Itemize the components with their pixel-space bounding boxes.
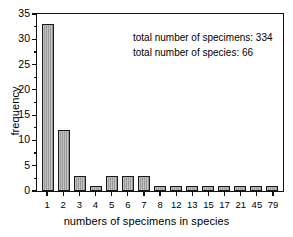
x-tick-label: 1	[39, 198, 55, 212]
annotation-species: total number of species: 66	[133, 46, 273, 61]
y-tick-label: 0	[24, 184, 30, 197]
x-axis-title: numbers of specimens in species	[0, 215, 293, 227]
x-tick-label: 79	[265, 198, 281, 212]
bar	[122, 176, 134, 191]
x-axis-tick-labels: 1234567812131517214579	[36, 198, 284, 212]
x-tick-label: 3	[71, 198, 87, 212]
x-tick-label: 4	[87, 198, 103, 212]
y-tick-label: 20	[18, 83, 30, 96]
bar-slot	[56, 14, 72, 191]
bar-slot	[40, 14, 56, 191]
bar	[106, 176, 118, 191]
bar	[250, 186, 262, 191]
bar-slot	[88, 14, 104, 191]
bar-slot	[104, 14, 120, 191]
x-tick-label: 13	[184, 198, 200, 212]
plot-area: 05101520253035 total number of specimens…	[36, 13, 284, 192]
x-tick-label: 12	[168, 198, 184, 212]
y-tick-label: 35	[18, 7, 30, 20]
bar	[170, 186, 182, 191]
x-tick-label: 17	[217, 198, 233, 212]
bar	[202, 186, 214, 191]
x-tick-label: 21	[233, 198, 249, 212]
y-tick-label: 10	[18, 133, 30, 146]
y-tick-label: 25	[18, 58, 30, 71]
bar	[90, 186, 102, 191]
annotation-block: total number of specimens: 334 total num…	[133, 31, 273, 60]
annotation-specimens: total number of specimens: 334	[133, 31, 273, 46]
bar	[138, 176, 150, 191]
bar	[42, 24, 54, 191]
x-tick-label: 15	[200, 198, 216, 212]
x-tick-label: 2	[55, 198, 71, 212]
x-tick-label: 45	[249, 198, 265, 212]
bar	[218, 186, 230, 191]
bar	[266, 186, 278, 191]
histogram-figure: frequency 05101520253035 total number of…	[0, 0, 293, 237]
bar	[234, 186, 246, 191]
y-tick-label: 15	[18, 108, 30, 121]
y-tick-label: 30	[18, 32, 30, 45]
bar	[154, 186, 166, 191]
x-tick-label: 8	[152, 198, 168, 212]
bar	[186, 186, 198, 191]
y-tick-label: 5	[24, 159, 30, 172]
bar	[58, 130, 70, 191]
bar	[74, 176, 86, 191]
x-tick-label: 7	[136, 198, 152, 212]
x-tick-label: 6	[120, 198, 136, 212]
x-tick-label: 5	[104, 198, 120, 212]
bar-slot	[72, 14, 88, 191]
